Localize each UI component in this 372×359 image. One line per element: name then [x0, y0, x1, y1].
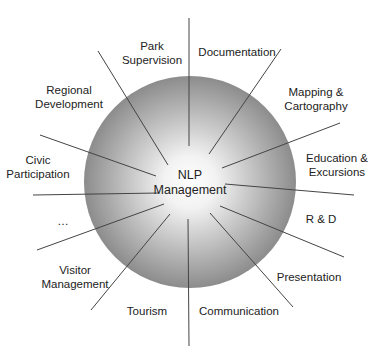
branch-label-line2: Participation	[6, 167, 69, 181]
branch-label-line2: Development	[35, 97, 103, 111]
branch-label-r-and-d: R & D	[306, 212, 337, 226]
nlp-management-diagram: NLP Management ParkSupervisionDocumentat…	[0, 0, 372, 359]
branch-label-line2: Cartography	[284, 99, 347, 113]
branch-label-line1: Visitor	[41, 263, 108, 277]
branch-label-visitor-management: VisitorManagement	[41, 263, 108, 291]
branch-label-line2: Management	[41, 277, 108, 291]
branch-label-presentation: Presentation	[277, 270, 342, 284]
branch-label-education-excursions: Education &Excursions	[306, 151, 368, 179]
branch-label-line1: Presentation	[277, 270, 342, 284]
branch-label-line1: Regional	[35, 83, 103, 97]
branch-label-more: …	[57, 214, 69, 228]
branch-label-line1: Park	[122, 39, 182, 53]
branch-label-line1: Civic	[6, 153, 69, 167]
branch-label-line1: Documentation	[198, 45, 275, 59]
branch-label-line2: Excursions	[306, 165, 368, 179]
branch-label-line1: …	[57, 214, 69, 228]
branch-label-line1: Education &	[306, 151, 368, 165]
branch-label-mapping-cartography: Mapping &Cartography	[284, 85, 347, 113]
branch-label-documentation: Documentation	[198, 45, 275, 59]
center-label-line1: NLP	[154, 168, 227, 183]
branch-label-line2: Supervision	[122, 53, 182, 67]
branch-label-line1: R & D	[306, 212, 337, 226]
branch-label-civic-participation: CivicParticipation	[6, 153, 69, 181]
branch-label-park-supervision: ParkSupervision	[122, 39, 182, 67]
branch-label-tourism: Tourism	[127, 304, 167, 318]
branch-label-line1: Communication	[199, 304, 279, 318]
center-label: NLP Management	[154, 168, 227, 198]
branch-label-line1: Tourism	[127, 304, 167, 318]
branch-label-line1: Mapping &	[284, 85, 347, 99]
branch-label-communication: Communication	[199, 304, 279, 318]
center-label-line2: Management	[154, 183, 227, 198]
branch-label-regional-development: RegionalDevelopment	[35, 83, 103, 111]
